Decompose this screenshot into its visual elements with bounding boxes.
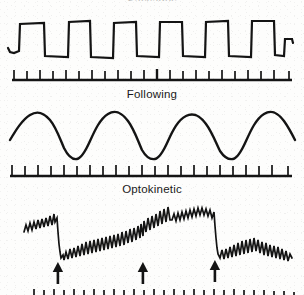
panel-label-following: Following xyxy=(0,88,304,100)
trace-optokinetic xyxy=(24,207,292,261)
trace-following xyxy=(10,112,295,159)
eye-movement-recording-figure: Saccades xyxy=(0,0,304,295)
timebase-ruler-saccades xyxy=(12,69,292,80)
trace-saccades xyxy=(8,21,293,58)
arrow-marker-1 xyxy=(53,262,63,284)
timebase-ruler-optokinetic xyxy=(34,289,294,295)
arrow-marker-3 xyxy=(210,260,220,282)
panel-label-optokinetic: Optokinetic xyxy=(0,183,304,195)
panel-label-saccades: Saccades xyxy=(0,0,304,1)
arrow-marker-2 xyxy=(138,262,148,284)
optokinetic-arrow-markers xyxy=(53,260,220,284)
traces-svg xyxy=(0,0,304,295)
timebase-ruler-following xyxy=(10,165,292,176)
